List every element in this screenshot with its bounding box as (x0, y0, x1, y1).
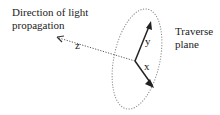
z-axis-label: z (75, 39, 80, 51)
plane-label-line2: plane (175, 38, 199, 50)
z-arrow-head (57, 36, 64, 42)
plane-label-line1: Traverse (175, 25, 213, 37)
traverse-plane-ellipse (104, 4, 170, 113)
x-axis-label: x (144, 60, 150, 72)
direction-label-line2: propagation (12, 19, 65, 31)
y-axis-label: y (145, 35, 151, 47)
z-axis-line (59, 38, 135, 61)
y-arrow-head (146, 21, 152, 30)
x-arrow-head (145, 79, 154, 88)
direction-label-line1: Direction of light (12, 6, 88, 18)
